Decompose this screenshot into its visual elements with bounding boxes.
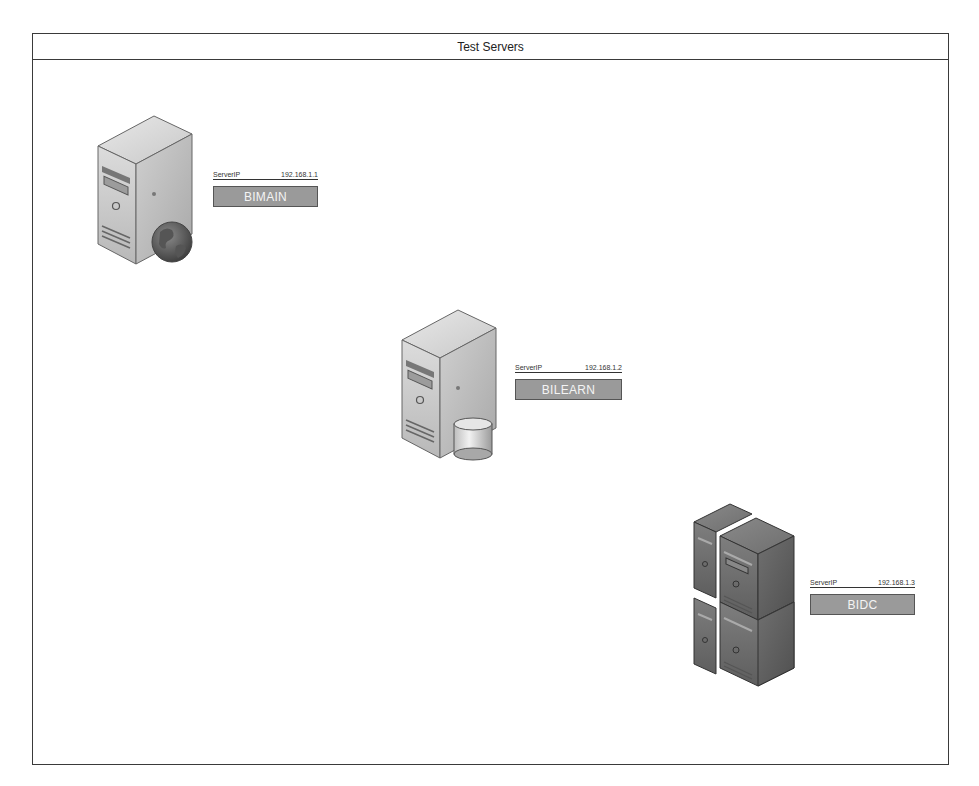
server-name-box: BIDC: [810, 594, 915, 615]
server-ip-label: ServerIP: [515, 364, 542, 371]
server-bilearn[interactable]: [396, 300, 506, 462]
server-ip-value: 192.168.1.2: [585, 364, 622, 371]
server-ip-row: ServerIP 192.168.1.1: [213, 171, 318, 180]
server-ip-value: 192.168.1.3: [878, 579, 915, 586]
server-name-box: BIMAIN: [213, 186, 318, 207]
cluster-unit-back-bottom: [694, 598, 716, 674]
server-ip-row: ServerIP 192.168.1.3: [810, 579, 915, 588]
cluster-unit-front-top: [720, 518, 794, 620]
server-bilearn-label: ServerIP 192.168.1.2 BILEARN: [515, 364, 622, 400]
server-bimain-label: ServerIP 192.168.1.1 BIMAIN: [213, 171, 318, 207]
server-ip-label: ServerIP: [810, 579, 837, 586]
server-bidc[interactable]: [690, 498, 810, 702]
server-name-box: BILEARN: [515, 379, 622, 400]
server-bidc-label: ServerIP 192.168.1.3 BIDC: [810, 579, 915, 615]
diagram-title: Test Servers: [33, 34, 948, 60]
server-ip-row: ServerIP 192.168.1.2: [515, 364, 622, 373]
web-server-icon: [92, 106, 202, 268]
server-ip-value: 192.168.1.1: [281, 171, 318, 178]
database-server-icon: [396, 300, 506, 462]
server-cluster-icon: [690, 498, 810, 702]
server-bimain[interactable]: [92, 106, 202, 268]
server-ip-label: ServerIP: [213, 171, 240, 178]
